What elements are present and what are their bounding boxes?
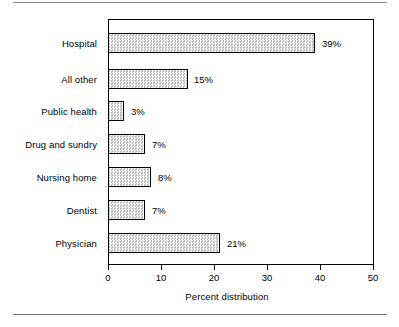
x-tick-label-10: 10 bbox=[146, 272, 176, 283]
category-label-physician: Physician bbox=[0, 238, 97, 249]
x-tick-label-20: 20 bbox=[199, 272, 229, 283]
x-tick-label-40: 40 bbox=[305, 272, 335, 283]
category-label-all-other: All other bbox=[0, 74, 97, 85]
x-tick-label-30: 30 bbox=[252, 272, 282, 283]
x-tick-50 bbox=[373, 265, 374, 270]
category-label-public-health: Public health bbox=[0, 106, 97, 117]
bottom-divider-rule bbox=[13, 314, 387, 315]
x-tick-30 bbox=[267, 265, 268, 270]
category-label-drug-and-sundry: Drug and sundry bbox=[0, 139, 97, 150]
bar-public-health bbox=[108, 101, 124, 121]
x-tick-20 bbox=[214, 265, 215, 270]
category-label-nursing-home: Nursing home bbox=[0, 172, 97, 183]
category-label-dentist: Dentist bbox=[0, 205, 97, 216]
bar-drug-and-sundry bbox=[108, 134, 145, 154]
x-tick-10 bbox=[161, 265, 162, 270]
x-tick-label-0: 0 bbox=[93, 272, 123, 283]
x-tick-label-50: 50 bbox=[358, 272, 388, 283]
bar-value-all-other: 15% bbox=[194, 74, 213, 85]
plot-frame bbox=[108, 19, 374, 265]
bar-chart-figure: Hospital 39% All other 15% Public health… bbox=[0, 0, 399, 327]
bar-all-other bbox=[108, 69, 188, 89]
bar-value-nursing-home: 8% bbox=[158, 172, 172, 183]
x-tick-0 bbox=[108, 265, 109, 270]
bar-nursing-home bbox=[108, 167, 151, 187]
x-axis-title-container: Percent distribution bbox=[0, 291, 399, 302]
category-label-hospital: Hospital bbox=[0, 38, 97, 49]
bar-value-dentist: 7% bbox=[152, 205, 166, 216]
bar-hospital bbox=[108, 33, 315, 53]
x-axis-title: Percent distribution bbox=[185, 291, 268, 302]
bar-value-physician: 21% bbox=[227, 238, 246, 249]
x-tick-40 bbox=[320, 265, 321, 270]
bar-value-hospital: 39% bbox=[322, 38, 341, 49]
bar-physician bbox=[108, 233, 220, 253]
bar-value-drug-and-sundry: 7% bbox=[152, 139, 166, 150]
top-divider-rule bbox=[13, 2, 387, 3]
bar-dentist bbox=[108, 200, 145, 220]
bar-value-public-health: 3% bbox=[131, 106, 145, 117]
